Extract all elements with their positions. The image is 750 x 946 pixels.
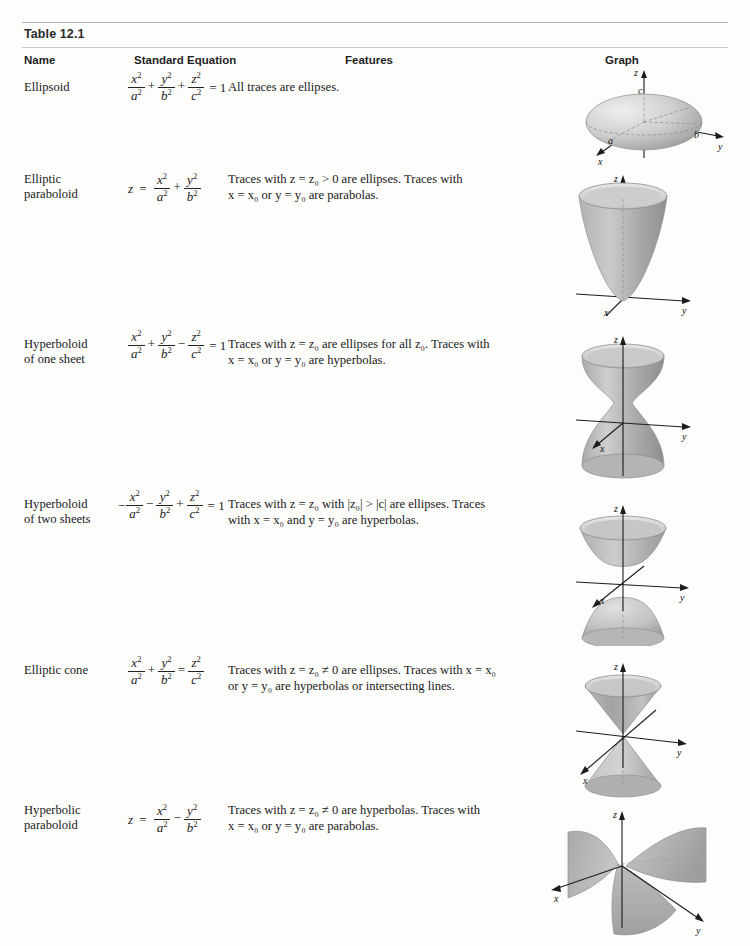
row-features-hyperboloid-two-sheets: Traces with z = z₀ with |z₀| > |c| are e…	[228, 497, 538, 528]
label-c: c	[638, 85, 643, 96]
rule-under-title	[22, 47, 728, 48]
row-features-elliptic-cone: Traces with z = z₀ ≠ 0 are ellipses. Tra…	[228, 663, 538, 694]
svg-text:y: y	[679, 592, 685, 603]
name-line-2: paraboloid	[24, 818, 134, 833]
column-header-equation: Standard Equation	[134, 54, 236, 66]
graph-hyperboloid-two-sheets: z y x	[576, 486, 748, 646]
label-b: b	[694, 129, 699, 140]
features-line-2: or y = y₀ are hyperbolas or intersecting…	[228, 679, 538, 695]
equation-hyperboloid-one-sheet: x2a2+y2b2−z2c2= 1	[128, 336, 226, 351]
svg-text:y: y	[676, 747, 682, 758]
features-line-1: Traces with z = z₀ > 0 are ellipses. Tra…	[228, 172, 528, 188]
svg-text:z: z	[612, 809, 617, 820]
features-line-2: x = x₀ or y = y₀ are parabolas.	[228, 188, 528, 204]
svg-text:x: x	[603, 307, 609, 316]
svg-text:y: y	[681, 431, 687, 442]
features-line-1: Traces with z = z₀ with |z₀| > |c| are e…	[228, 497, 538, 513]
features-line-1: Traces with z = z₀ are ellipses for all …	[228, 337, 538, 353]
svg-text:y: y	[717, 141, 723, 152]
name-line-1: Ellipsoid	[24, 80, 69, 94]
features-line-1: Traces with z = z₀ ≠ 0 are hyperbolas. T…	[228, 803, 528, 819]
name-line-1: Elliptic cone	[24, 663, 88, 677]
row-name-elliptic-cone: Elliptic cone	[24, 663, 134, 678]
graph-hyperbolic-paraboloid: z y x	[546, 798, 750, 946]
label-a: a	[608, 135, 613, 146]
svg-text:x: x	[599, 443, 605, 454]
row-name-ellipsoid: Ellipsoid	[24, 80, 134, 95]
column-header-features: Features	[345, 54, 393, 66]
equation-elliptic-cone: x2a2+y2b2=z2c2	[128, 662, 204, 677]
features-line-2: x = x₀ or y = y₀ are hyperbolas.	[228, 353, 538, 369]
name-line-1: Elliptic	[24, 172, 61, 186]
graph-hyperboloid-one-sheet: z y x	[576, 326, 748, 481]
row-features-ellipsoid: All traces are ellipses.	[228, 80, 528, 96]
svg-text:x: x	[599, 595, 605, 606]
column-header-name: Name	[24, 54, 55, 66]
features-line-2: with x = x₀ and y = y₀ are hyperbolas.	[228, 513, 538, 529]
features-line-1: Traces with z = z₀ ≠ 0 are ellipses. Tra…	[228, 663, 538, 679]
features-line-1: All traces are ellipses.	[228, 80, 528, 96]
row-name-hyperboloid-one-sheet: Hyperboloid of one sheet	[24, 337, 134, 367]
name-line-2: paraboloid	[24, 187, 134, 202]
row-name-elliptic-paraboloid: Elliptic paraboloid	[24, 172, 134, 202]
equation-hyperboloid-two-sheets: −x2a2−y2b2+z2c2= 1	[118, 496, 225, 511]
name-line-1: Hyperboloid	[24, 497, 88, 511]
name-line-1: Hyperbolic	[24, 803, 81, 817]
svg-text:x: x	[553, 893, 559, 904]
svg-text:z: z	[613, 503, 618, 514]
row-name-hyperbolic-paraboloid: Hyperbolic paraboloid	[24, 803, 134, 833]
row-features-elliptic-paraboloid: Traces with z = z₀ > 0 are ellipses. Tra…	[228, 172, 528, 203]
svg-text:z: z	[633, 67, 638, 78]
svg-text:z: z	[613, 334, 618, 345]
name-line-2: of one sheet	[24, 352, 134, 367]
equation-hyperbolic-paraboloid: z =x2a2−y2b2	[128, 810, 201, 825]
features-line-2: x = x₀ or y = y₀ are parabolas.	[228, 819, 528, 835]
table-page: Table 12.1 Name Standard Equation Featur…	[0, 0, 750, 946]
graph-elliptic-cone: z y x	[576, 648, 748, 800]
equation-ellipsoid: x2a2+y2b2+z2c2= 1	[128, 78, 226, 93]
graph-ellipsoid: z y x c a b	[578, 60, 746, 168]
equation-elliptic-paraboloid: z =x2a2+y2b2	[128, 179, 201, 194]
svg-text:y: y	[681, 305, 687, 316]
name-line-1: Hyperboloid	[24, 337, 88, 351]
svg-text:z: z	[613, 173, 618, 184]
graph-elliptic-paraboloid: z y x	[576, 166, 748, 316]
svg-text:z: z	[613, 661, 618, 672]
row-features-hyperboloid-one-sheet: Traces with z = z₀ are ellipses for all …	[228, 337, 538, 368]
row-features-hyperbolic-paraboloid: Traces with z = z₀ ≠ 0 are hyperbolas. T…	[228, 803, 528, 834]
rule-top	[22, 22, 728, 23]
svg-text:x: x	[582, 775, 588, 786]
table-title: Table 12.1	[24, 27, 85, 41]
svg-text:y: y	[695, 925, 701, 936]
